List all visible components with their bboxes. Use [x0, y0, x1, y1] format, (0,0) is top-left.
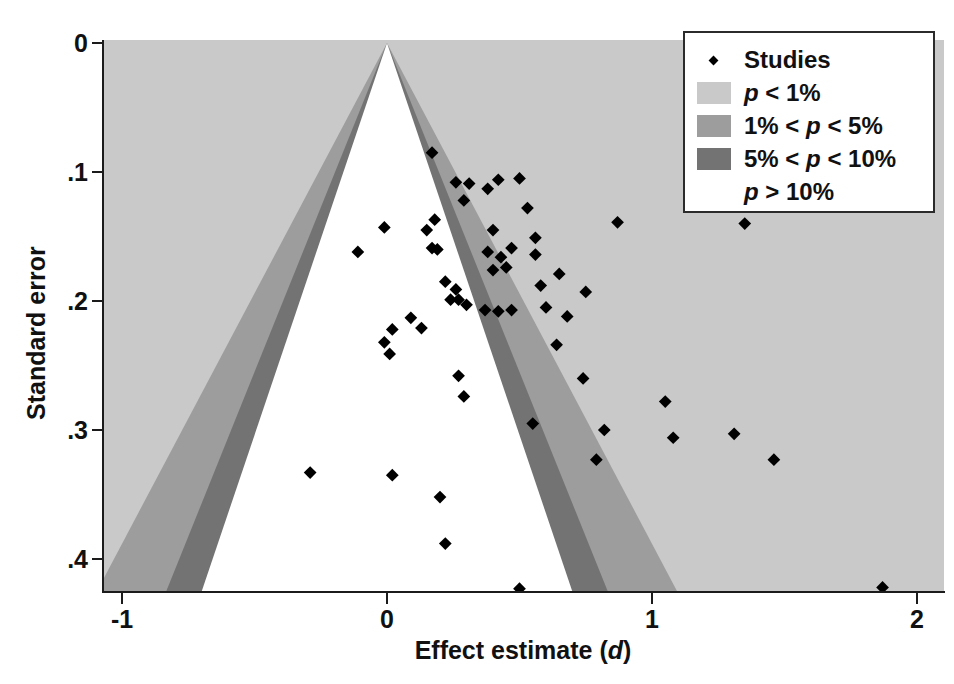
x-tick-label: 2: [910, 605, 924, 634]
x-axis-title-suffix: ): [623, 636, 631, 664]
y-tick-label: 0: [33, 29, 88, 58]
legend-swatch: [697, 148, 731, 170]
x-tick-label: -1: [111, 605, 133, 634]
legend-label-text: < 10%: [821, 145, 896, 172]
y-tick: [92, 558, 103, 560]
y-tick: [92, 42, 103, 44]
x-axis-line: [102, 591, 945, 593]
legend-item: Studies: [697, 43, 919, 76]
x-axis-title-prefix: Effect estimate (: [415, 636, 608, 664]
x-axis-title-italic-d: d: [608, 636, 623, 664]
legend-label-text: 1% <: [744, 112, 806, 139]
y-tick-label: .4: [33, 545, 88, 574]
legend-label-italic: p: [806, 145, 821, 172]
legend-label-text: > 10%: [759, 178, 834, 205]
legend-item-label: p > 10%: [744, 178, 834, 206]
legend-swatch: [697, 82, 731, 104]
legend-item-label: 5% < p < 10%: [744, 145, 896, 173]
legend-item: 1% < p < 5%: [697, 109, 919, 142]
legend: Studiesp < 1%1% < p < 5%5% < p < 10%p > …: [683, 31, 935, 213]
x-tick-label: 0: [380, 605, 394, 634]
legend-item: 5% < p < 10%: [697, 142, 919, 175]
legend-item-label: Studies: [744, 46, 831, 74]
legend-label-text: Studies: [744, 46, 831, 73]
y-axis-line: [102, 40, 104, 593]
x-tick-label: 1: [645, 605, 659, 634]
y-tick: [92, 300, 103, 302]
legend-item-label: p < 1%: [744, 79, 821, 107]
legend-item-label: 1% < p < 5%: [744, 112, 883, 140]
legend-swatch: [697, 115, 731, 137]
legend-label-text: < 1%: [759, 79, 821, 106]
x-tick: [121, 593, 123, 604]
legend-item: p < 1%: [697, 76, 919, 109]
y-tick: [92, 171, 103, 173]
legend-label-text: 5% <: [744, 145, 806, 172]
legend-label-text: < 5%: [821, 112, 883, 139]
x-axis-title: Effect estimate (d): [415, 636, 632, 665]
x-tick: [651, 593, 653, 604]
legend-label-italic: p: [744, 178, 759, 205]
y-axis-title: Standard error: [22, 246, 51, 420]
funnel-plot-figure: 0.1.2.3.4 -1012 Standard error Effect es…: [0, 0, 954, 684]
legend-item: p > 10%: [697, 175, 919, 208]
y-tick: [92, 429, 103, 431]
x-tick: [916, 593, 918, 604]
y-tick-label: .1: [33, 158, 88, 187]
legend-marker-icon: [697, 49, 731, 71]
legend-label-italic: p: [744, 79, 759, 106]
x-tick: [386, 593, 388, 604]
legend-swatch-empty: [697, 181, 731, 203]
legend-label-italic: p: [806, 112, 821, 139]
